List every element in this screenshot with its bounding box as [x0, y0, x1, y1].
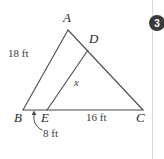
eight-ft-leader-arrowhead	[32, 111, 37, 116]
measure-label-unknown-de: x	[74, 77, 79, 88]
segment-a-to-c	[68, 30, 143, 110]
geometry-figure: A B C D E 18 ft 16 ft 8 ft x 3	[0, 0, 164, 159]
segment-a-to-b	[23, 30, 68, 110]
vertex-label-e: E	[41, 111, 49, 124]
vertex-label-d: D	[89, 32, 98, 45]
measure-label-side-ec: 16 ft	[86, 112, 106, 123]
vertex-label-c: C	[136, 111, 145, 124]
measure-label-side-ab: 18 ft	[8, 48, 28, 59]
triangle-diagram-svg	[0, 0, 164, 159]
measure-label-segment-be: 8 ft	[43, 128, 58, 139]
vertex-label-a: A	[63, 11, 71, 24]
vertex-label-b: B	[14, 111, 22, 124]
question-number-badge: 3	[149, 15, 164, 31]
segment-d-to-e	[47, 50, 88, 110]
